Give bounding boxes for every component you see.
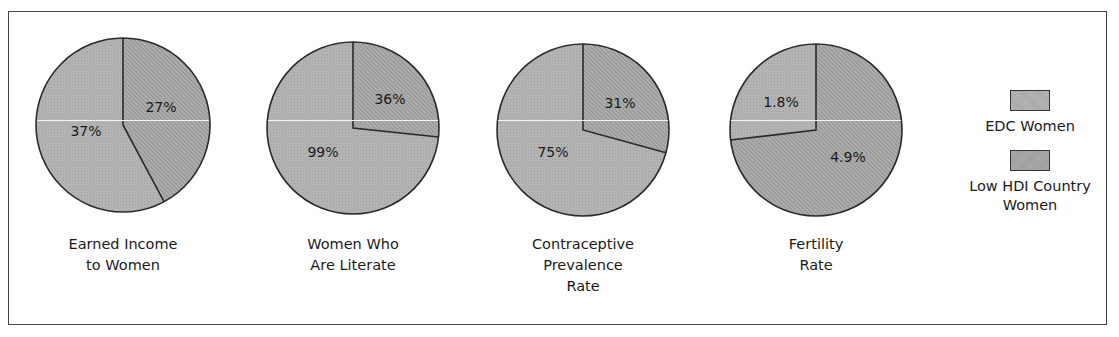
- pie-title-3: ContraceptivePrevalenceRate: [483, 234, 683, 297]
- pie-slice-small: [730, 44, 816, 140]
- legend-label-line: Women: [960, 196, 1100, 215]
- pie-value-label-small: 27%: [145, 99, 176, 115]
- pie-value-label-large: 37%: [70, 123, 101, 139]
- pie-value-label-small: 36%: [374, 91, 405, 107]
- pie-value-label-small: 1.8%: [763, 94, 799, 110]
- pie-title-line: Are Literate: [253, 255, 453, 276]
- pie-title-4: FertilityRate: [716, 234, 916, 276]
- pie-value-label-large: 99%: [307, 144, 338, 160]
- legend-label-line: Low HDI Country: [960, 177, 1100, 196]
- pie-chart-2: 36%99%: [267, 42, 439, 214]
- pie-value-label-small: 31%: [604, 95, 635, 111]
- legend-swatch-edc-women: [1010, 90, 1050, 111]
- pies-group: 27%37%36%99%31%75%1.8%4.9%: [36, 38, 902, 216]
- pie-value-label-large: 4.9%: [830, 149, 866, 165]
- legend-swatch-low-hdi-women: [1010, 150, 1050, 171]
- legend-item-edc-women: EDC Women: [960, 90, 1100, 136]
- pie-title-line: Rate: [483, 276, 683, 297]
- legend-label-low-hdi-women: Low HDI Country Women: [960, 177, 1100, 215]
- legend-label-line: EDC Women: [960, 117, 1100, 136]
- pie-title-line: Contraceptive: [483, 234, 683, 255]
- pie-slice-small: [353, 42, 439, 137]
- pie-chart-3: 31%75%: [497, 44, 669, 216]
- pie-chart-4: 1.8%4.9%: [730, 44, 902, 216]
- pie-title-line: Earned Income: [23, 234, 223, 255]
- pie-title-line: Fertility: [716, 234, 916, 255]
- pie-chart-1: 27%37%: [36, 38, 210, 212]
- legend: EDC Women Low HDI Country Women: [960, 90, 1100, 229]
- pie-value-label-large: 75%: [537, 144, 568, 160]
- pie-title-line: to Women: [23, 255, 223, 276]
- pie-title-2: Women WhoAre Literate: [253, 234, 453, 276]
- legend-label-edc-women: EDC Women: [960, 117, 1100, 136]
- legend-item-low-hdi-women: Low HDI Country Women: [960, 150, 1100, 215]
- pie-title-line: Prevalence: [483, 255, 683, 276]
- pie-title-line: Women Who: [253, 234, 453, 255]
- pie-title-line: Rate: [716, 255, 916, 276]
- pie-title-1: Earned Incometo Women: [23, 234, 223, 276]
